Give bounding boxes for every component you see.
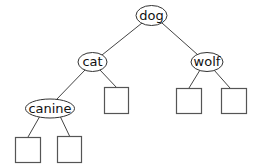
- edge-wolf-leaf-left: [189, 70, 200, 88]
- node-dog: dog: [136, 6, 167, 26]
- edges: [28, 23, 230, 137]
- node-cat-label: cat: [82, 54, 102, 69]
- binary-tree-diagram: dog cat wolf canine: [0, 0, 261, 167]
- node-canine-label: canine: [28, 101, 71, 116]
- leaf-canine-right-box: [58, 137, 82, 163]
- leaf-wolf-right-box: [222, 89, 247, 114]
- node-cat: cat: [78, 53, 107, 72]
- node-dog-label: dog: [139, 8, 163, 23]
- leaf-wolf-left-box: [177, 89, 202, 114]
- node-canine: canine: [26, 99, 75, 118]
- leaf-cat-right-box: [105, 88, 129, 114]
- node-wolf-label: wolf: [194, 54, 221, 69]
- leaf-canine-left-box: [16, 138, 41, 163]
- edge-dog-wolf: [162, 23, 198, 55]
- edge-canine-leaf-left: [28, 116, 40, 137]
- node-wolf: wolf: [191, 53, 223, 72]
- edge-cat-leaf: [100, 70, 117, 88]
- edge-cat-canine: [56, 70, 85, 100]
- edge-wolf-leaf-right: [214, 70, 230, 88]
- edge-canine-leaf-right: [60, 116, 70, 137]
- edge-dog-cat: [102, 23, 142, 55]
